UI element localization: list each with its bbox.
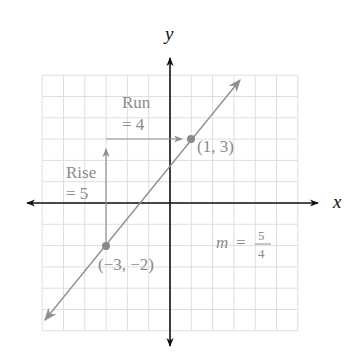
point-1-3-label: (1, 3) (197, 137, 234, 156)
rise-label-line2: = 5 (66, 184, 88, 203)
point-1-3 (187, 135, 195, 143)
slope-equals: = (236, 233, 246, 252)
y-axis-label: y (163, 23, 174, 44)
point-neg3-neg2 (102, 242, 110, 250)
slope-diagram: x y (1, 3) (−3, −2) Run = 4 Rise = 5 m =… (0, 0, 360, 357)
run-label-line2: = 4 (122, 115, 145, 134)
x-axis-label: x (332, 191, 342, 212)
slope-numerator: 5 (258, 228, 265, 243)
point-neg3-neg2-label: (−3, −2) (98, 255, 154, 274)
rise-label-line1: Rise (66, 163, 96, 182)
slope-m: m (216, 233, 228, 252)
run-label-line1: Run (122, 93, 151, 112)
slope-formula: m = 5 4 (216, 228, 271, 261)
slope-denominator: 4 (258, 246, 265, 261)
